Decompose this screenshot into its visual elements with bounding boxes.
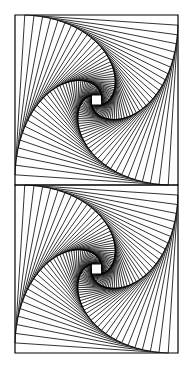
whirl-figure	[0, 0, 189, 373]
bottom-whirl-panel	[15, 185, 178, 353]
top-whirl-panel	[15, 15, 178, 185]
center-square	[92, 96, 101, 105]
center-square	[92, 265, 101, 274]
